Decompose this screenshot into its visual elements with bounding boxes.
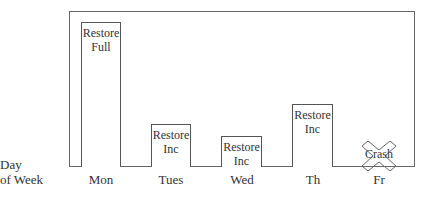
day-th: Th xyxy=(283,172,343,188)
bar-label: Restore xyxy=(293,108,332,122)
axis-label-line1: Day xyxy=(0,157,43,172)
bar-tues: Restore Inc xyxy=(151,124,191,167)
bar-label: Restore xyxy=(152,128,190,142)
day-wed: Wed xyxy=(212,172,272,188)
bar-wed: Restore Inc xyxy=(221,136,262,167)
bar-mon: Restore Full xyxy=(81,22,121,167)
bar-label: Inc xyxy=(293,122,332,136)
axis-label: Day of Week xyxy=(0,157,43,187)
bar-label: Restore xyxy=(82,26,120,40)
bar-label: Inc xyxy=(152,142,190,156)
bar-label: Restore xyxy=(222,140,261,154)
bar-label: Inc xyxy=(222,154,261,168)
bar-th: Restore Inc xyxy=(292,104,333,167)
day-fr: Fr xyxy=(349,172,409,188)
bar-label: Full xyxy=(82,40,120,54)
axis-label-line2: of Week xyxy=(0,172,43,187)
day-mon: Mon xyxy=(71,172,131,188)
day-tues: Tues xyxy=(141,172,201,188)
crash-label: Crash xyxy=(362,147,396,162)
